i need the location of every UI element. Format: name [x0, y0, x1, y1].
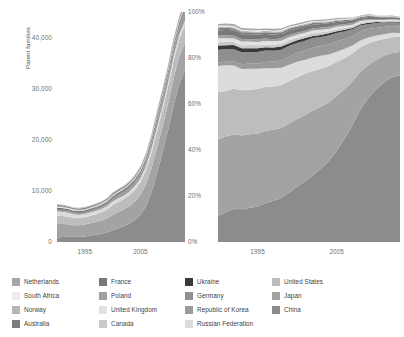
legend-item-label: Netherlands: [24, 278, 59, 286]
legend-swatch-icon: [185, 306, 193, 314]
legend-swatch-icon: [99, 292, 107, 300]
chart-legend: NetherlandsSouth AfricaNorwayAustraliaFr…: [0, 268, 404, 337]
legend-item[interactable]: China: [272, 304, 301, 315]
left-chart-y-tick: 20,000: [32, 136, 52, 143]
legend-item[interactable]: Russian Federation: [185, 318, 253, 329]
right-chart-y-tick: 20%: [188, 192, 201, 199]
legend-swatch-icon: [99, 320, 107, 328]
charts-container: Patent families 010,00020,00030,00040,00…: [0, 0, 404, 268]
left-chart-y-axis-label: Patent families: [24, 8, 31, 88]
legend-item[interactable]: Netherlands: [12, 276, 59, 287]
legend-item-label: South Africa: [24, 292, 59, 300]
legend-swatch-icon: [272, 292, 280, 300]
right-chart-panel: 0%20%40%60%80%100% 19952005: [186, 0, 404, 268]
legend-item[interactable]: South Africa: [12, 290, 59, 301]
chart-page: Patent families 010,00020,00030,00040,00…: [0, 0, 404, 337]
left-chart-y-tick: 30,000: [32, 85, 52, 92]
legend-item-label: Republic of Korea: [197, 306, 249, 314]
legend-item[interactable]: France: [99, 276, 131, 287]
legend-item-label: France: [111, 278, 131, 286]
legend-item-label: China: [284, 306, 301, 314]
right-chart-y-tick: 0%: [188, 238, 197, 245]
left-chart-panel: Patent families 010,00020,00030,00040,00…: [0, 0, 186, 268]
legend-item-label: Russian Federation: [197, 320, 253, 328]
legend-item[interactable]: Poland: [99, 290, 131, 301]
legend-swatch-icon: [185, 278, 193, 286]
legend-swatch-icon: [12, 306, 20, 314]
legend-item[interactable]: Canada: [99, 318, 134, 329]
legend-item[interactable]: Republic of Korea: [185, 304, 249, 315]
right-chart-y-tick: 40%: [188, 146, 201, 153]
legend-item-label: Germany: [197, 292, 224, 300]
legend-swatch-icon: [12, 320, 20, 328]
legend-item[interactable]: Germany: [185, 290, 224, 301]
legend-item-label: Norway: [24, 306, 46, 314]
right-chart-y-tick: 60%: [188, 100, 201, 107]
legend-item[interactable]: Norway: [12, 304, 46, 315]
right-chart-y-tick: 100%: [188, 8, 205, 15]
left-chart-plot-area: [57, 12, 185, 242]
left-chart-y-tick: 10,000: [32, 187, 52, 194]
legend-item[interactable]: United Kingdom: [99, 304, 157, 315]
right-chart-x-tick: 1995: [250, 248, 265, 255]
legend-item-label: Canada: [111, 320, 134, 328]
left-chart-y-tick: 0: [48, 238, 52, 245]
legend-item-label: United States: [284, 278, 323, 286]
legend-item[interactable]: Ukraine: [185, 276, 219, 287]
legend-item-label: Australia: [24, 320, 49, 328]
legend-item-label: United Kingdom: [111, 306, 157, 314]
legend-item-label: Ukraine: [197, 278, 219, 286]
left-chart-y-tick: 40,000: [32, 34, 52, 41]
legend-swatch-icon: [12, 278, 20, 286]
legend-swatch-icon: [12, 292, 20, 300]
legend-item[interactable]: United States: [272, 276, 323, 287]
right-chart-x-tick: 2005: [329, 248, 344, 255]
left-chart-x-tick: 1995: [78, 248, 93, 255]
legend-item[interactable]: Australia: [12, 318, 49, 329]
legend-swatch-icon: [272, 278, 280, 286]
left-chart-x-tick: 2005: [133, 248, 148, 255]
legend-item-label: Poland: [111, 292, 131, 300]
legend-item[interactable]: Japan: [272, 290, 302, 301]
right-chart-y-tick: 80%: [188, 54, 201, 61]
legend-swatch-icon: [99, 306, 107, 314]
legend-swatch-icon: [272, 306, 280, 314]
legend-swatch-icon: [99, 278, 107, 286]
right-chart-plot-area: [218, 12, 400, 242]
legend-item-label: Japan: [284, 292, 302, 300]
legend-swatch-icon: [185, 320, 193, 328]
legend-swatch-icon: [185, 292, 193, 300]
